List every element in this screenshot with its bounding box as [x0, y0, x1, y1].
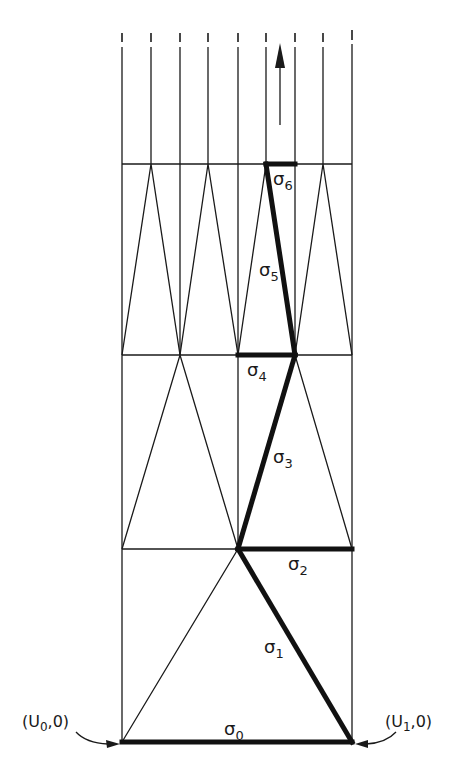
band-fine-triangulation [122, 164, 352, 355]
top-vertical-lines [122, 44, 352, 164]
pointer-arrow-u0-icon [76, 732, 120, 748]
simplex-path [122, 164, 352, 742]
band-coarse-triangulation [122, 549, 352, 742]
label-sigma2: σ2 [288, 553, 308, 578]
label-point-u0: (U0,0) [22, 712, 69, 734]
label-sigma1: σ1 [264, 636, 284, 661]
band-medium-triangulation [122, 355, 352, 549]
label-sigma6: σ6 [273, 168, 293, 193]
sigma1-segment [238, 549, 352, 742]
label-sigma3: σ3 [273, 446, 293, 471]
sigma3-segment [238, 355, 295, 549]
upward-arrow-icon [275, 43, 285, 125]
vertical-line-continuation-dashes [122, 30, 352, 42]
triangulation-diagram: σ0 σ1 σ2 σ3 σ4 σ5 σ6 (U0,0) (U1,0) [0, 0, 464, 768]
pointer-arrow-u1-icon [355, 732, 396, 748]
label-sigma4: σ4 [247, 359, 267, 384]
label-sigma5: σ5 [259, 259, 279, 284]
label-sigma0: σ0 [224, 718, 244, 743]
label-point-u1: (U1,0) [385, 712, 432, 734]
